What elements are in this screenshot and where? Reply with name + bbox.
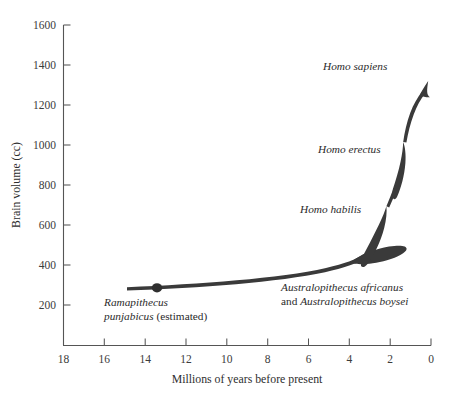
annotation-australopithecus-conjunction: and	[281, 295, 300, 307]
x-tick-label: 12	[180, 353, 192, 365]
x-tick-label: 16	[99, 353, 111, 365]
brain-volume-evolution-chart: 1600 1400 1200 1000 800 600 400 200 18 1…	[0, 0, 454, 400]
annotation-australopithecus: Australopithecus africanus and Australop…	[281, 281, 408, 308]
y-tick-label: 1400	[33, 59, 56, 71]
annotation-ramapithecus-line1: Ramapithecus	[104, 296, 207, 310]
australopithecus-blob	[353, 246, 407, 265]
x-tick-label: 0	[428, 353, 434, 365]
annotation-australopithecus-line2: and Australopithecus boysei	[281, 295, 408, 309]
annotation-australopithecus-africanus-text: Australopithecus africanus	[281, 281, 403, 293]
annotation-ramapithecus-estimated-text: (estimated)	[154, 310, 208, 322]
homo-erectus-spindle	[392, 142, 405, 199]
x-tick-label: 4	[346, 353, 352, 365]
x-tick-label: 2	[387, 353, 393, 365]
annotation-homo-habilis: Homo habilis	[300, 203, 361, 217]
annotation-homo-erectus: Homo erectus	[318, 143, 381, 157]
y-axis-tick-labels: 1600 1400 1200 1000 800 600 400 200	[33, 19, 56, 311]
y-tick-label: 400	[39, 259, 57, 271]
y-tick-label: 1000	[33, 139, 56, 151]
y-axis-title: Brain volume (cc)	[9, 142, 23, 228]
annotation-australopithecus-boysei-text: Australopithecus boysei	[300, 295, 408, 307]
annotation-australopithecus-line1: Australopithecus africanus	[281, 281, 408, 295]
x-tick-label: 18	[58, 353, 70, 365]
annotation-homo-erectus-text: Homo erectus	[318, 143, 381, 155]
x-tick-label: 8	[265, 353, 271, 365]
annotation-homo-sapiens-text: Homo sapiens	[323, 60, 387, 72]
hominid-lineage-curve	[127, 81, 430, 292]
x-axis-tick-labels: 18 16 14 12 10 8 6 4 2 0	[58, 353, 434, 365]
y-tick-label: 200	[39, 299, 57, 311]
annotation-ramapithecus: Ramapithecus punjabicus (estimated)	[104, 296, 207, 323]
lineage-stem-erectus-sapiens	[403, 92, 425, 143]
y-tick-label: 800	[39, 179, 57, 191]
x-tick-label: 14	[139, 353, 151, 365]
homo-sapiens-tip	[420, 81, 430, 97]
annotation-ramapithecus-line2: punjabicus (estimated)	[104, 310, 207, 324]
y-tick-label: 600	[39, 219, 57, 231]
x-axis-ticks	[64, 339, 432, 346]
y-tick-label: 1200	[33, 99, 56, 111]
annotation-homo-habilis-text: Homo habilis	[300, 203, 361, 215]
annotation-ramapithecus-species-text: punjabicus	[104, 310, 154, 322]
x-tick-label: 6	[306, 353, 312, 365]
x-tick-label: 10	[221, 353, 233, 365]
annotation-homo-sapiens: Homo sapiens	[323, 60, 387, 74]
ramapithecus-data-point	[152, 283, 162, 292]
y-tick-label: 1600	[33, 19, 56, 31]
annotation-ramapithecus-genus-text: Ramapithecus	[104, 296, 168, 308]
x-axis-title: Millions of years before present	[172, 372, 323, 386]
y-axis-ticks	[64, 25, 71, 305]
